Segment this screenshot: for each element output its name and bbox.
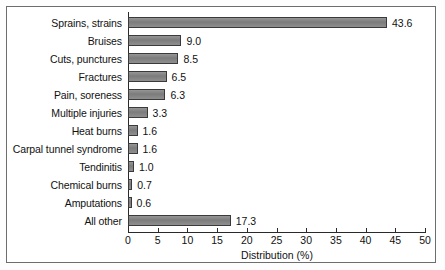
bar-row: Carpal tunnel syndrome1.6 xyxy=(0,140,445,158)
bar-value-label: 1.6 xyxy=(143,141,158,157)
bar xyxy=(128,89,165,100)
bar-value-label: 43.6 xyxy=(392,15,412,31)
bar xyxy=(128,107,148,118)
category-label: Cuts, punctures xyxy=(0,50,122,68)
x-axis-tick-label: 15 xyxy=(202,234,232,246)
x-axis-tick xyxy=(217,228,218,232)
x-axis-tick-label: 40 xyxy=(351,234,381,246)
x-axis-tick-label: 45 xyxy=(380,234,410,246)
x-axis-line xyxy=(128,232,426,233)
bar-row: Amputations0.6 xyxy=(0,194,445,212)
x-axis-tick xyxy=(277,228,278,232)
bar xyxy=(128,17,387,28)
x-axis-tick-label: 5 xyxy=(143,234,173,246)
category-label: Heat burns xyxy=(0,122,122,140)
bar-row: Fractures6.5 xyxy=(0,68,445,86)
x-axis-title: Distribution (%) xyxy=(128,249,426,261)
category-label: Fractures xyxy=(0,68,122,86)
bar xyxy=(128,143,138,154)
bar xyxy=(128,215,231,226)
category-label: Pain, soreness xyxy=(0,86,122,104)
chart-figure: Sprains, strains43.6Bruises9.0Cuts, punc… xyxy=(0,0,445,270)
x-axis-tick xyxy=(128,228,129,232)
bar-value-label: 17.3 xyxy=(236,213,256,229)
x-axis-tick xyxy=(395,228,396,232)
bar-row: Bruises9.0 xyxy=(0,32,445,50)
bar-value-label: 0.7 xyxy=(137,177,152,193)
bar-value-label: 6.3 xyxy=(170,87,185,103)
x-axis-tick xyxy=(366,228,367,232)
category-label: Chemical burns xyxy=(0,176,122,194)
bar-row: Tendinitis1.0 xyxy=(0,158,445,176)
bar-row: Multiple injuries3.3 xyxy=(0,104,445,122)
category-label: Carpal tunnel syndrome xyxy=(0,140,122,158)
bar-value-label: 1.0 xyxy=(139,159,154,175)
x-axis-tick xyxy=(158,228,159,232)
x-axis-tick-label: 50 xyxy=(410,234,440,246)
bar xyxy=(128,125,138,136)
x-axis-tick xyxy=(187,228,188,232)
bar-value-label: 3.3 xyxy=(153,105,168,121)
category-label: Bruises xyxy=(0,32,122,50)
bar-value-label: 1.6 xyxy=(143,123,158,139)
category-label: All other xyxy=(0,212,122,230)
bar xyxy=(128,161,134,172)
bar xyxy=(128,197,132,208)
x-axis-tick xyxy=(425,228,426,232)
bar-chart-plot-area: Sprains, strains43.6Bruises9.0Cuts, punc… xyxy=(0,0,445,270)
bar-row: Cuts, punctures8.5 xyxy=(0,50,445,68)
x-axis-tick-label: 10 xyxy=(172,234,202,246)
bar-value-label: 6.5 xyxy=(172,69,187,85)
bar-row: All other17.3 xyxy=(0,212,445,230)
x-axis-tick xyxy=(336,228,337,232)
bar-row: Chemical burns0.7 xyxy=(0,176,445,194)
category-label: Sprains, strains xyxy=(0,14,122,32)
x-axis-tick-label: 20 xyxy=(232,234,262,246)
bar-row: Pain, soreness6.3 xyxy=(0,86,445,104)
bar-row: Sprains, strains43.6 xyxy=(0,14,445,32)
bar-value-label: 8.5 xyxy=(183,51,198,67)
x-axis-tick xyxy=(247,228,248,232)
bar-value-label: 0.6 xyxy=(137,195,152,211)
bar xyxy=(128,53,178,64)
x-axis-tick-label: 0 xyxy=(113,234,143,246)
x-axis-tick xyxy=(306,228,307,232)
x-axis-tick-label: 30 xyxy=(291,234,321,246)
bar-row: Heat burns1.6 xyxy=(0,122,445,140)
category-label: Amputations xyxy=(0,194,122,212)
x-axis-tick-label: 25 xyxy=(262,234,292,246)
bar-value-label: 9.0 xyxy=(186,33,201,49)
bar xyxy=(128,71,167,82)
bar xyxy=(128,179,132,190)
bar xyxy=(128,35,181,46)
category-label: Multiple injuries xyxy=(0,104,122,122)
category-label: Tendinitis xyxy=(0,158,122,176)
x-axis-tick-label: 35 xyxy=(321,234,351,246)
